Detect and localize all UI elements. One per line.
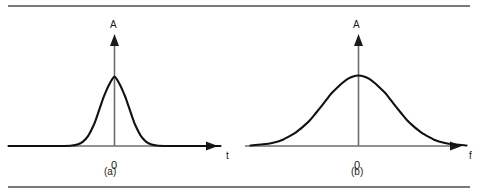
- plot-a-time-domain: [0, 12, 240, 182]
- x-axis-label-a: t: [226, 151, 229, 161]
- panel-caption-b: (b): [351, 167, 363, 177]
- panel-a: A t 0 (a): [0, 12, 240, 182]
- y-axis-label-a: A: [110, 20, 117, 30]
- plot-b-frequency-domain: [240, 12, 481, 182]
- y-axis-arrowhead-b: [354, 34, 363, 46]
- x-axis-arrowhead-b: [450, 142, 462, 151]
- bottom-divider-rule: [8, 186, 470, 188]
- x-axis-label-b: f: [469, 151, 472, 161]
- figure-container: A t 0 (a) A f 0 (b): [0, 0, 481, 195]
- top-divider-rule: [8, 5, 470, 7]
- panel-b: A f 0 (b): [240, 12, 481, 182]
- panel-caption-a: (a): [104, 167, 116, 177]
- y-axis-label-b: A: [353, 20, 360, 30]
- y-axis-arrowhead-a: [110, 34, 119, 46]
